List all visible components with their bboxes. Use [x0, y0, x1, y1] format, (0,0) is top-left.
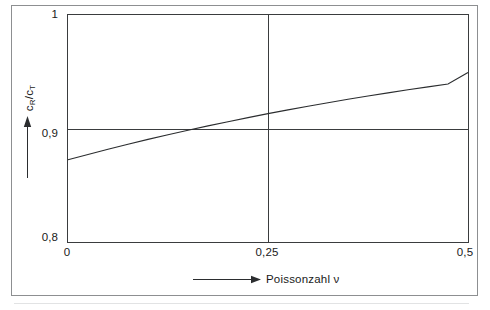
plot-area — [67, 14, 469, 243]
x-axis-label: Poissonzahl ν — [193, 271, 340, 287]
y-tick-label-0.8: 0,8 — [28, 231, 58, 243]
y-axis-label: cR/cT — [12, 78, 46, 118]
x-tick-label-0.5: 0,5 — [448, 246, 482, 258]
y-tick-label-0.9: 0,9 — [28, 127, 58, 139]
y-tick-label-1: 1 — [28, 8, 58, 20]
data-curve-line — [68, 73, 468, 160]
y-axis-label-c1: c — [23, 105, 35, 111]
data-curve-svg — [68, 15, 468, 242]
y-axis-label-sub-r: R — [28, 99, 37, 105]
page-artifact-line — [14, 303, 469, 304]
x-tick-label-0: 0 — [55, 246, 79, 258]
y-axis-arrow-icon — [23, 116, 32, 178]
figure-root: 1 0,9 0,8 0 0,25 0,5 cR/cT Poissonzahl ν — [0, 0, 490, 310]
y-axis-label-sub-t: T — [28, 85, 37, 90]
x-axis-label-text: Poissonzahl ν — [266, 273, 340, 285]
y-axis-label-text: cR/cT — [23, 85, 35, 111]
x-tick-label-0.25: 0,25 — [246, 246, 288, 258]
y-axis-label-slash-c: /c — [23, 90, 35, 99]
x-axis-arrow-icon — [193, 275, 261, 284]
